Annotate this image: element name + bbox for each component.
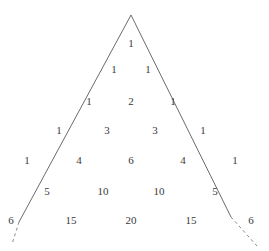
triangle-number: 15	[60, 215, 82, 226]
triangle-number: 6	[120, 155, 142, 166]
triangle-number: 1	[120, 38, 142, 49]
triangle-number: 2	[120, 96, 142, 107]
triangle-number: 1	[162, 96, 184, 107]
triangle-number: 6	[240, 215, 262, 226]
triangle-number: 10	[92, 186, 114, 197]
pascals-triangle-figure: 111121133114641151010511615201561	[0, 0, 269, 251]
triangle-number: 1	[260, 186, 269, 197]
triangle-number: 3	[96, 125, 118, 136]
triangle-number: 1	[48, 125, 70, 136]
triangle-number: 1	[192, 125, 214, 136]
triangle-number: 1	[137, 64, 159, 75]
triangle-number: 5	[204, 186, 226, 197]
triangle-number: 6	[0, 215, 22, 226]
triangle-number: 3	[144, 125, 166, 136]
triangle-number: 1	[0, 186, 2, 197]
triangle-number: 4	[172, 155, 194, 166]
triangle-number: 5	[36, 186, 58, 197]
triangle-number: 10	[148, 186, 170, 197]
triangle-number: 15	[180, 215, 202, 226]
triangle-number: 4	[68, 155, 90, 166]
triangle-number: 20	[120, 215, 142, 226]
triangle-rows-layer: 111121133114641151010511615201561	[0, 0, 269, 251]
triangle-number: 1	[16, 155, 38, 166]
triangle-number: 1	[78, 96, 100, 107]
triangle-number: 1	[224, 155, 246, 166]
triangle-number: 1	[103, 64, 125, 75]
